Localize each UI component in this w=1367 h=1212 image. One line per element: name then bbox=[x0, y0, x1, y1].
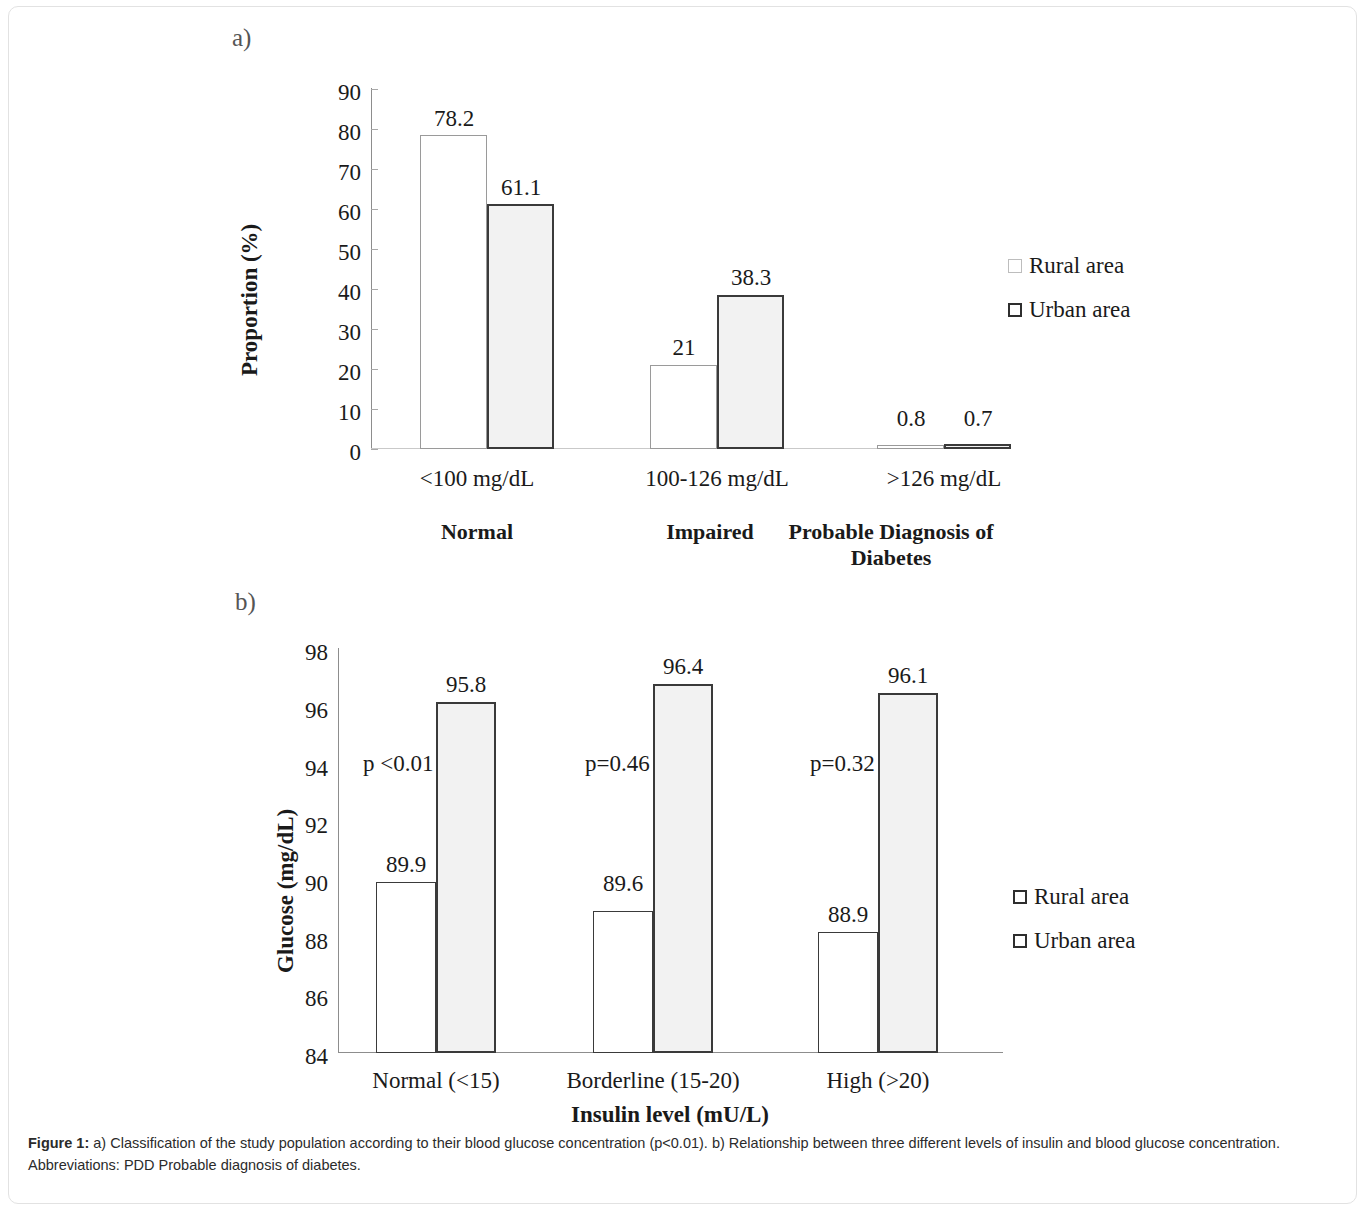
chart-b-legend-item-rural: Rural area bbox=[1013, 884, 1136, 910]
chart-b-ytick-96: 96 bbox=[283, 699, 328, 722]
bar-value-rural-insulin-borderline: 89.6 bbox=[583, 871, 663, 897]
bar-urban-insulin-borderline bbox=[653, 684, 713, 1053]
bar-value-urban-insulin-borderline: 96.4 bbox=[643, 654, 723, 680]
chart-b-y-axis-line bbox=[338, 648, 339, 1053]
bar-urban-insulin-normal bbox=[436, 702, 496, 1053]
chart-b-legend: Rural area Urban area bbox=[1013, 884, 1136, 972]
bar-value-rural-insulin-normal: 89.9 bbox=[366, 852, 446, 878]
chart-b-legend-item-urban: Urban area bbox=[1013, 928, 1136, 954]
bar-value-urban-insulin-high: 96.1 bbox=[868, 663, 948, 689]
bar-rural-insulin-normal bbox=[376, 882, 436, 1053]
chart-b-ytick-94: 94 bbox=[283, 757, 328, 780]
chart-b-ytick-86: 86 bbox=[283, 987, 328, 1010]
bar-value-urban-insulin-normal: 95.8 bbox=[426, 672, 506, 698]
chart-b-x-axis-title: Insulin level (mU/L) bbox=[460, 1102, 880, 1128]
figure-caption-text: a) Classification of the study populatio… bbox=[28, 1135, 1280, 1173]
chart-b-legend-label-rural: Rural area bbox=[1034, 884, 1129, 910]
bar-urban-insulin-high bbox=[878, 693, 938, 1053]
chart-b-category-label-0: Normal (<15) bbox=[336, 1068, 536, 1094]
legend-swatch-rural-icon bbox=[1013, 890, 1027, 904]
bar-rural-insulin-high bbox=[818, 932, 878, 1053]
chart-b-legend-label-urban: Urban area bbox=[1034, 928, 1136, 954]
bar-value-rural-insulin-high: 88.9 bbox=[808, 902, 888, 928]
chart-b-ytick-98: 98 bbox=[283, 641, 328, 664]
bar-rural-insulin-borderline bbox=[593, 911, 653, 1053]
chart-b-ytick-88: 88 bbox=[283, 930, 328, 953]
chart-b-ytick-92: 92 bbox=[283, 814, 328, 837]
figure-caption: Figure 1: a) Classification of the study… bbox=[28, 1133, 1338, 1177]
chart-b-ytick-90: 90 bbox=[283, 872, 328, 895]
chart-b-glucose: Glucose (mg/dL) 98 96 94 92 90 88 86 84 … bbox=[0, 0, 1367, 1212]
figure-caption-label: Figure 1: bbox=[28, 1135, 89, 1151]
legend-swatch-urban-icon bbox=[1013, 934, 1027, 948]
chart-b-pvalue-high: p=0.32 bbox=[810, 751, 875, 777]
chart-b-ytick-84: 84 bbox=[283, 1045, 328, 1068]
chart-b-pvalue-normal: p <0.01 bbox=[363, 751, 433, 777]
chart-b-category-label-2: High (>20) bbox=[778, 1068, 978, 1094]
chart-b-category-label-1: Borderline (15-20) bbox=[543, 1068, 763, 1094]
chart-b-pvalue-borderline: p=0.46 bbox=[585, 751, 650, 777]
